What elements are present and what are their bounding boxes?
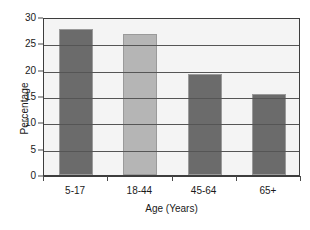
y-axis-tick-label: 5 (30, 145, 36, 155)
plot-area (43, 18, 300, 176)
bar-chart: Percentage 051015202530 Age (Years) 5-17… (0, 0, 310, 230)
x-axis-tick-mark (236, 176, 237, 181)
y-axis-tick-label: 10 (25, 118, 36, 128)
x-axis-tick-mark (43, 176, 44, 181)
gridline (44, 98, 299, 99)
gridline (44, 151, 299, 152)
y-axis-tick-label: 30 (25, 13, 36, 23)
gridline (44, 72, 299, 73)
y-axis-tick-mark (38, 123, 43, 124)
x-axis-tick-mark (107, 176, 108, 181)
bar[interactable] (123, 34, 157, 175)
y-axis-tick-mark (38, 18, 43, 19)
x-axis-tick-label: 5-17 (65, 185, 85, 196)
x-axis-tick-label: 65+ (259, 185, 276, 196)
y-axis-tick-mark (38, 44, 43, 45)
y-axis-tick-label: 0 (30, 171, 36, 181)
x-axis-tick-label: 18-44 (127, 185, 153, 196)
gridline (44, 124, 299, 125)
y-axis-tick-mark (38, 70, 43, 71)
bar[interactable] (59, 29, 93, 175)
x-axis-tick-label: 45-64 (191, 185, 217, 196)
y-axis-tick-label: 25 (25, 39, 36, 49)
gridline (44, 45, 299, 46)
x-axis-tick-mark (172, 176, 173, 181)
y-axis-tick-mark (38, 97, 43, 98)
x-axis-tick-mark (300, 176, 301, 181)
y-axis-tick-label: 15 (25, 92, 36, 102)
y-axis-tick-label: 20 (25, 66, 36, 76)
y-axis-tick-labels: 051015202530 (16, 18, 36, 176)
x-axis-title: Age (Years) (43, 203, 300, 214)
bar[interactable] (252, 94, 286, 175)
y-axis-tick-mark (38, 149, 43, 150)
